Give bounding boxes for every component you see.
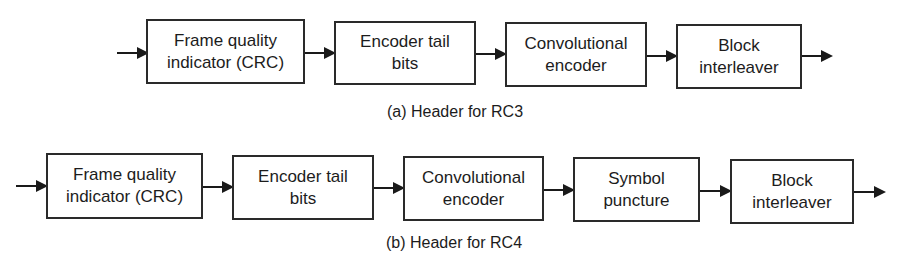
output-arrow-rc4 [854, 191, 884, 193]
arrow-head-icon [821, 50, 833, 62]
block-label-line1: Encoder tail [360, 31, 450, 53]
arrow-crc-to-tail-rc4 [203, 186, 232, 188]
block-label-line1: Block [771, 170, 813, 192]
block-label-line2: bits [392, 53, 418, 75]
block-frame-quality-indicator-rc3: Frame quality indicator (CRC) [146, 19, 305, 84]
block-encoder-tail-bits-rc4: Encoder tail bits [232, 155, 374, 220]
block-label-line1: Encoder tail [258, 166, 348, 188]
block-convolutional-encoder-rc4: Convolutional encoder [403, 156, 544, 221]
input-arrow-rc4 [16, 185, 46, 187]
arrow-tail-to-conv-rc4 [374, 187, 403, 189]
diagram-canvas: Frame quality indicator (CRC) Encoder ta… [0, 0, 899, 270]
caption-rc3: (a) Header for RC3 [387, 103, 523, 121]
block-label-line2: encoder [545, 55, 606, 77]
arrow-tail-to-conv-rc3 [476, 53, 505, 55]
block-label-line2: interleaver [752, 192, 831, 214]
block-label-line2: puncture [603, 190, 669, 212]
block-frame-quality-indicator-rc4: Frame quality indicator (CRC) [46, 153, 203, 219]
block-label-line1: Convolutional [524, 33, 627, 55]
block-symbol-puncture-rc4: Symbol puncture [573, 157, 700, 222]
block-label-line1: Frame quality [73, 164, 176, 186]
block-label-line2: encoder [443, 189, 504, 211]
arrow-puncture-to-interleaver-rc4 [700, 190, 730, 192]
input-arrow-rc3 [117, 52, 147, 54]
block-block-interleaver-rc4: Block interleaver [730, 159, 854, 224]
block-label-line2: interleaver [699, 57, 778, 79]
caption-rc4: (b) Header for RC4 [386, 234, 522, 252]
block-label-line1: Symbol [608, 168, 665, 190]
block-label-line1: Block [718, 35, 760, 57]
block-label-line2: bits [290, 188, 316, 210]
block-convolutional-encoder-rc3: Convolutional encoder [505, 22, 647, 87]
arrow-conv-to-interleaver-rc3 [647, 55, 676, 57]
output-arrow-rc3 [802, 55, 831, 57]
arrow-crc-to-tail-rc3 [305, 52, 334, 54]
block-block-interleaver-rc3: Block interleaver [676, 24, 802, 89]
block-encoder-tail-bits-rc3: Encoder tail bits [334, 21, 476, 85]
arrow-conv-to-puncture-rc4 [544, 189, 573, 191]
block-label-line1: Frame quality [174, 30, 277, 52]
block-label-line2: indicator (CRC) [66, 186, 183, 208]
arrow-head-icon [874, 186, 886, 198]
block-label-line2: indicator (CRC) [167, 52, 284, 74]
block-label-line1: Convolutional [422, 167, 525, 189]
